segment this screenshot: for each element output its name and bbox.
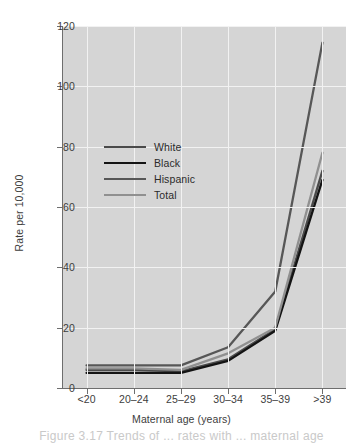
- plot-area: [63, 26, 346, 388]
- figure-caption: Figure 3.17 Trends of ... rates with ...…: [0, 429, 363, 443]
- legend-swatch-icon: [104, 162, 146, 165]
- x-tick-label: 35–39: [260, 393, 290, 405]
- legend-swatch-icon: [104, 178, 146, 181]
- gridline-vertical: [275, 26, 276, 388]
- y-tick-label: 80: [63, 141, 75, 153]
- gridline-vertical: [228, 26, 229, 388]
- legend-swatch-icon: [104, 194, 146, 197]
- legend-item-white[interactable]: White: [104, 139, 195, 155]
- x-tick-label: 25–29: [166, 393, 196, 405]
- legend-item-total[interactable]: Total: [104, 187, 195, 203]
- x-tick-label: 20–24: [119, 393, 149, 405]
- y-tick-label: 120: [57, 20, 75, 32]
- y-tick-label: 100: [57, 80, 75, 92]
- y-tick-mark: [57, 207, 62, 208]
- legend-label: White: [154, 142, 181, 153]
- y-tick-mark: [57, 267, 62, 268]
- x-tick-label: >39: [313, 393, 331, 405]
- gridline-horizontal: [63, 26, 346, 27]
- y-tick-mark: [57, 328, 62, 329]
- legend-item-black[interactable]: Black: [104, 155, 195, 171]
- legend-item-hispanic[interactable]: Hispanic: [104, 171, 195, 187]
- x-tick-label: 30–34: [213, 393, 243, 405]
- x-axis-title: Maternal age (years): [0, 413, 363, 425]
- gridline-horizontal: [63, 86, 346, 87]
- legend-label: Black: [154, 158, 180, 169]
- y-tick-mark: [57, 147, 62, 148]
- legend-swatch-icon: [104, 146, 146, 149]
- y-tick-mark: [57, 388, 62, 389]
- gridline-horizontal: [63, 207, 346, 208]
- legend-label: Hispanic: [154, 174, 195, 185]
- x-axis-line: [62, 388, 346, 389]
- gridline-horizontal: [63, 267, 346, 268]
- gridline-vertical: [87, 26, 88, 388]
- chart-legend: WhiteBlackHispanicTotal: [104, 139, 195, 203]
- gridline-vertical: [134, 26, 135, 388]
- gridline-vertical: [322, 26, 323, 388]
- gridline-horizontal: [63, 328, 346, 329]
- gridline-vertical: [181, 26, 182, 388]
- x-tick-label: <20: [78, 393, 96, 405]
- y-tick-label: 40: [63, 261, 75, 273]
- series-line-hispanic: [87, 43, 323, 366]
- legend-label: Total: [154, 190, 177, 201]
- y-tick-label: 0: [69, 382, 75, 394]
- y-axis-title: Rate per 10,000: [13, 158, 25, 268]
- y-tick-label: 20: [63, 322, 75, 334]
- series-line-black: [87, 180, 323, 373]
- y-tick-label: 60: [63, 201, 75, 213]
